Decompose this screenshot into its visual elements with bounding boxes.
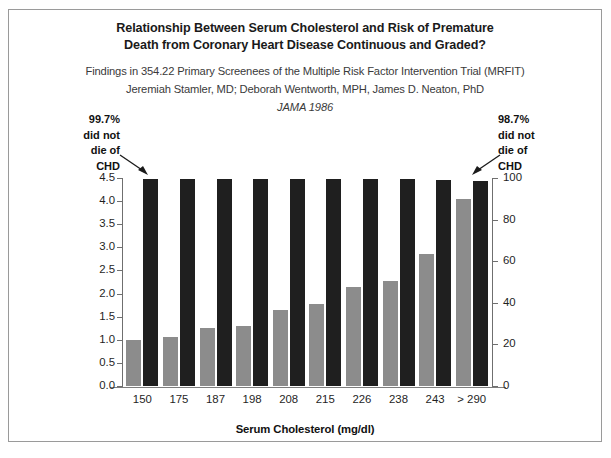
y-tick-label-left-5: 2.5 xyxy=(75,264,115,275)
x-axis-tick-labels: 150175187198208215226238243> 290 xyxy=(124,393,490,411)
y-axis-right-line xyxy=(492,178,493,387)
arrow-left-icon xyxy=(118,152,154,180)
y-axis-left-labels: 0.00.51.01.52.02.53.03.54.04.5 xyxy=(70,0,115,458)
x-tick-label-9: > 290 xyxy=(442,393,502,405)
y-tick-label-right-2: 40 xyxy=(503,297,543,308)
bar-black-226 xyxy=(363,179,378,386)
bar-gray-198 xyxy=(236,326,251,386)
y-tick-left-2 xyxy=(117,340,122,341)
bar-black-208 xyxy=(290,179,305,386)
y-tick-label-right-0: 0 xyxy=(503,380,543,391)
bar-black-238 xyxy=(400,179,415,386)
bar-gray-226 xyxy=(346,287,361,386)
bar-gray-290 xyxy=(456,199,471,386)
y-tick-label-left-1: 0.5 xyxy=(75,357,115,368)
y-tick-right-5 xyxy=(493,178,498,179)
y-tick-right-3 xyxy=(493,261,498,262)
bar-gray-215 xyxy=(309,304,324,386)
bar-gray-238 xyxy=(383,281,398,386)
bar-black-198 xyxy=(253,179,268,386)
y-tick-label-right-3: 60 xyxy=(503,255,543,266)
y-tick-right-2 xyxy=(493,303,498,304)
y-tick-left-9 xyxy=(117,178,122,179)
y-tick-left-1 xyxy=(117,363,122,364)
y-tick-label-left-4: 2.0 xyxy=(75,288,115,299)
y-tick-right-1 xyxy=(493,344,498,345)
arrow-right-icon xyxy=(466,152,502,180)
bar-black-243 xyxy=(436,180,451,386)
y-tick-right-4 xyxy=(493,220,498,221)
y-tick-label-left-0: 0.0 xyxy=(75,380,115,391)
y-tick-label-right-4: 80 xyxy=(503,214,543,225)
bars-container xyxy=(124,178,490,386)
y-tick-left-8 xyxy=(117,201,122,202)
y-axis-right-labels: 020406080100 xyxy=(503,0,548,458)
bar-black-187 xyxy=(217,179,232,386)
x-axis-title: Serum Cholesterol (mg/dl) xyxy=(8,423,602,435)
y-tick-left-0 xyxy=(117,386,122,387)
bar-black-290 xyxy=(473,181,488,386)
y-tick-label-left-6: 3.0 xyxy=(75,241,115,252)
bar-gray-187 xyxy=(200,328,215,386)
y-tick-left-3 xyxy=(117,317,122,318)
y-tick-label-left-2: 1.0 xyxy=(75,334,115,345)
y-tick-right-0 xyxy=(493,386,498,387)
bar-gray-208 xyxy=(273,310,288,386)
bar-black-150 xyxy=(143,179,158,386)
y-tick-label-left-7: 3.5 xyxy=(75,218,115,229)
y-tick-left-7 xyxy=(117,224,122,225)
y-tick-left-6 xyxy=(117,247,122,248)
y-tick-left-5 xyxy=(117,270,122,271)
bar-gray-150 xyxy=(126,340,141,386)
y-tick-left-4 xyxy=(117,294,122,295)
figure-page: Relationship Between Serum Cholesterol a… xyxy=(0,0,611,458)
x-axis-line xyxy=(110,387,506,388)
bar-gray-175 xyxy=(163,337,178,386)
y-tick-label-left-8: 4.0 xyxy=(75,195,115,206)
y-tick-label-left-9: 4.5 xyxy=(75,172,115,183)
y-tick-label-left-3: 1.5 xyxy=(75,311,115,322)
bar-black-175 xyxy=(180,179,195,386)
y-tick-label-right-5: 100 xyxy=(503,172,543,183)
y-tick-label-right-1: 20 xyxy=(503,338,543,349)
plot-area xyxy=(124,178,490,386)
bar-gray-243 xyxy=(419,254,434,386)
bar-black-215 xyxy=(326,179,341,386)
y-axis-left-line xyxy=(122,178,123,387)
